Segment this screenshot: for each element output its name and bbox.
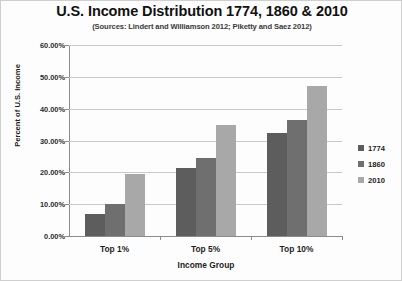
y-axis-tick-mark bbox=[65, 172, 69, 173]
x-axis-tick-mark bbox=[160, 236, 161, 240]
bar-1774-top-1-[interactable] bbox=[85, 214, 105, 236]
legend-swatch-icon bbox=[358, 161, 364, 167]
chart-legend: 177418602010 bbox=[358, 140, 385, 188]
legend-swatch-icon bbox=[358, 177, 364, 183]
y-axis-tick-label: 60.00% bbox=[21, 41, 65, 50]
y-axis-tick-mark bbox=[65, 204, 69, 205]
bar-1860-top-1-[interactable] bbox=[105, 204, 125, 236]
y-axis-tick-mark bbox=[65, 236, 69, 237]
x-axis-category-label: Top 5% bbox=[160, 244, 251, 254]
y-axis-tick-labels: 60.00%50.00%40.00%30.00%20.00%10.00%0.00… bbox=[13, 45, 65, 236]
bar-group bbox=[176, 45, 236, 236]
y-axis-tick-label: 20.00% bbox=[21, 168, 65, 177]
x-axis-category-label: Top 10% bbox=[251, 244, 342, 254]
bar-2010-top-10-[interactable] bbox=[307, 86, 327, 236]
bar-2010-top-5-[interactable] bbox=[216, 125, 236, 236]
y-axis-tick-label: 50.00% bbox=[21, 72, 65, 81]
legend-item-2010[interactable]: 2010 bbox=[358, 172, 385, 188]
x-axis-line bbox=[69, 236, 343, 237]
plot-area bbox=[69, 45, 342, 236]
x-axis-title: Income Group bbox=[69, 260, 343, 270]
y-axis-tick-mark bbox=[65, 109, 69, 110]
legend-item-1774[interactable]: 1774 bbox=[358, 140, 385, 156]
y-axis-tick-mark bbox=[65, 77, 69, 78]
y-axis-tick-mark bbox=[65, 141, 69, 142]
bar-1860-top-5-[interactable] bbox=[196, 158, 216, 236]
y-axis-tick-label: 10.00% bbox=[21, 200, 65, 209]
bar-group bbox=[267, 45, 327, 236]
y-axis-tick-label: 40.00% bbox=[21, 104, 65, 113]
y-axis-tick-mark bbox=[65, 45, 69, 46]
bar-group bbox=[85, 45, 145, 236]
legend-item-1860[interactable]: 1860 bbox=[358, 156, 385, 172]
legend-swatch-icon bbox=[358, 145, 364, 151]
legend-label: 2010 bbox=[368, 176, 385, 185]
bar-1774-top-10-[interactable] bbox=[267, 133, 287, 236]
y-axis-tick-label: 0.00% bbox=[21, 232, 65, 241]
x-axis-category-label: Top 1% bbox=[69, 244, 160, 254]
bar-2010-top-1-[interactable] bbox=[125, 174, 145, 236]
bar-1860-top-10-[interactable] bbox=[287, 120, 307, 236]
bar-1774-top-5-[interactable] bbox=[176, 168, 196, 236]
chart-title: U.S. Income Distribution 1774, 1860 & 20… bbox=[1, 3, 402, 19]
x-axis-tick-mark bbox=[251, 236, 252, 240]
legend-label: 1860 bbox=[368, 160, 385, 169]
x-axis-tick-mark bbox=[342, 236, 343, 240]
y-axis-tick-label: 30.00% bbox=[21, 136, 65, 145]
legend-label: 1774 bbox=[368, 144, 385, 153]
chart-figure: U.S. Income Distribution 1774, 1860 & 20… bbox=[0, 0, 402, 281]
chart-subtitle: (Sources: Lindert and Williamson 2012; P… bbox=[1, 22, 402, 31]
